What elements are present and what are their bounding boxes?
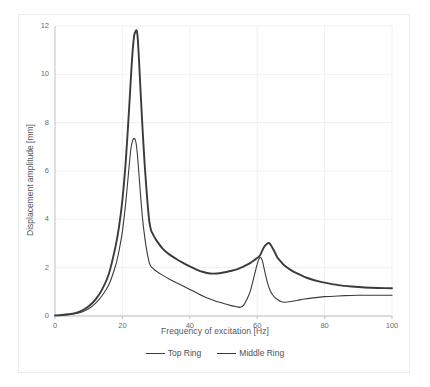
x-axis-title: Frequency of excitation [Hz] — [0, 326, 430, 336]
legend-label: Middle Ring — [239, 348, 284, 358]
y-axis-title-container: Displacement amplitude [mm] — [22, 100, 38, 260]
legend-item[interactable]: Middle Ring — [217, 348, 284, 358]
legend-item[interactable]: Top Ring — [146, 348, 202, 358]
y-tick-label: 12 — [33, 21, 49, 30]
chart-legend: Top RingMiddle Ring — [0, 348, 430, 358]
chart-frame — [18, 14, 410, 373]
legend-line-icon — [146, 353, 165, 354]
y-axis-title: Displacement amplitude [mm] — [25, 124, 35, 236]
chart-figure: 024681012 020406080100 Displacement ampl… — [0, 0, 430, 387]
y-tick-label: 0 — [33, 311, 49, 320]
y-tick-label: 2 — [33, 263, 49, 272]
legend-label: Top Ring — [168, 348, 202, 358]
legend-line-icon — [217, 353, 236, 354]
y-tick-label: 10 — [33, 69, 49, 78]
